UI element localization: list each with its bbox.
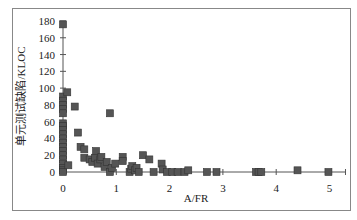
- scatter-chart: 012345020406080100120140160180 A/FR 单元测试…: [0, 0, 357, 220]
- data-point: [60, 169, 67, 176]
- data-point: [106, 110, 113, 117]
- x-tick-label: 0: [60, 182, 66, 194]
- y-tick-label: 160: [39, 32, 56, 44]
- data-point: [150, 169, 157, 176]
- y-tick-label: 0: [50, 166, 56, 178]
- data-point: [185, 167, 192, 174]
- y-tick-label: 80: [44, 99, 56, 111]
- data-point: [65, 162, 72, 169]
- y-tick-label: 40: [44, 132, 56, 144]
- data-point: [146, 156, 153, 163]
- x-tick-label: 4: [273, 182, 279, 194]
- data-point: [174, 169, 181, 176]
- y-tick-label: 120: [39, 65, 56, 77]
- y-tick-label: 60: [44, 116, 56, 128]
- data-point: [294, 167, 301, 174]
- data-point: [71, 103, 78, 110]
- y-axis-title: 单元测试缺陷/KLOC: [14, 47, 27, 146]
- x-tick-label: 3: [220, 182, 226, 194]
- data-point: [81, 146, 88, 153]
- y-tick-label: 140: [39, 49, 56, 61]
- y-tick-label: 20: [44, 149, 56, 161]
- data-point: [74, 129, 81, 136]
- x-tick-label: 5: [327, 182, 333, 194]
- data-point: [135, 169, 142, 176]
- data-point: [60, 21, 67, 28]
- data-point: [119, 158, 126, 165]
- data-point: [213, 169, 220, 176]
- y-tick-label: 180: [39, 15, 56, 27]
- data-point: [112, 160, 119, 167]
- data-point: [60, 110, 67, 117]
- data-point: [203, 169, 210, 176]
- x-tick-label: 2: [167, 182, 173, 194]
- x-axis-title: A/FR: [184, 192, 209, 204]
- y-tick-label: 100: [39, 82, 56, 94]
- x-tick-label: 1: [114, 182, 120, 194]
- data-point: [258, 169, 265, 176]
- data-point: [325, 169, 332, 176]
- data-point: [139, 152, 146, 159]
- data-point: [64, 89, 71, 96]
